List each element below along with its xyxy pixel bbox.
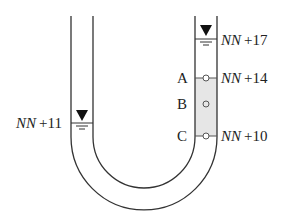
right-level-elevation: NN+17	[220, 32, 268, 48]
right-water-level-icon	[195, 25, 217, 45]
left-level-elevation: NN+11	[15, 115, 62, 131]
point-c-elevation: NN+10	[220, 128, 267, 144]
left-water-level-icon	[71, 110, 93, 129]
point-a-elevation: NN+14	[220, 70, 268, 86]
point-a-label: A	[177, 70, 188, 86]
tube-walls	[71, 16, 217, 210]
point-b-label: B	[177, 96, 187, 112]
u-tube-diagram: A B C NN+17 NN+14 NN+10 NN+11	[0, 0, 281, 224]
point-c-label: C	[177, 128, 187, 144]
